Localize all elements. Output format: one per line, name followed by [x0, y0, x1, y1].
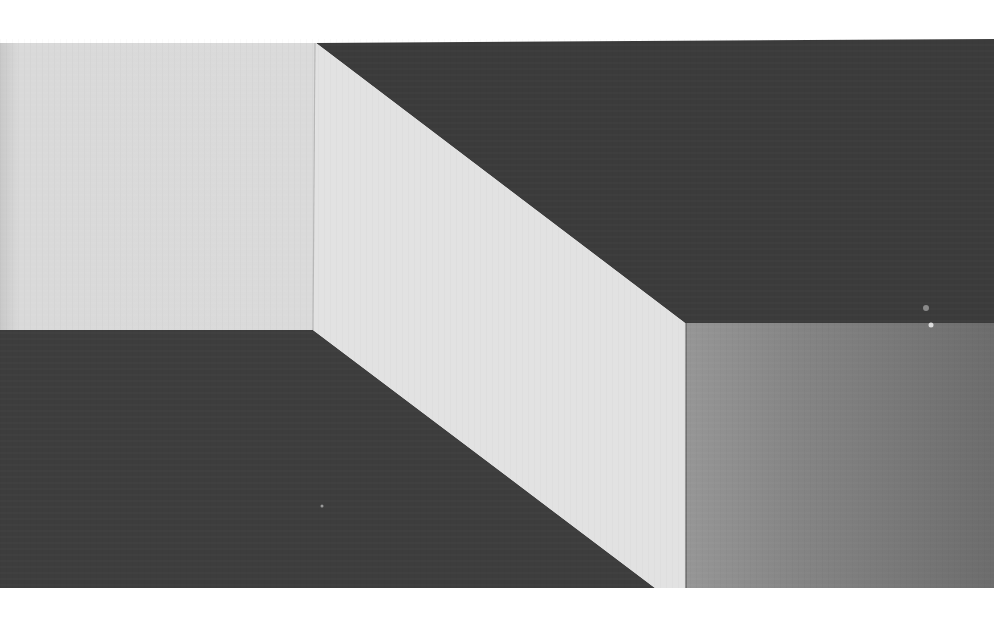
print-texture — [0, 39, 994, 588]
speck — [923, 305, 929, 311]
artwork-photo — [0, 0, 994, 632]
speck — [929, 323, 934, 328]
artwork-svg — [0, 0, 994, 632]
speck — [321, 505, 324, 508]
